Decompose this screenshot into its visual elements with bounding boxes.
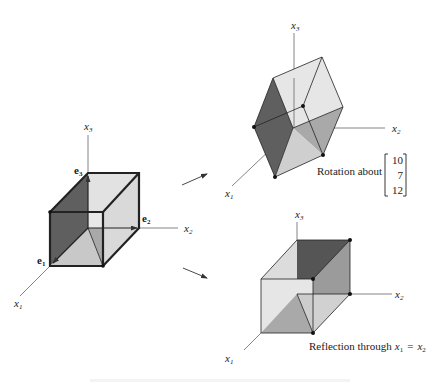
right-bracket bbox=[403, 154, 406, 196]
x1-axis bbox=[244, 333, 261, 350]
arrow-to-rotation bbox=[182, 174, 207, 185]
rotation-vector-entry-2: 7 bbox=[398, 169, 404, 181]
e3-label: e3 bbox=[74, 164, 83, 178]
rotation-vector-entry-1: 10 bbox=[392, 154, 404, 166]
original-cube-diagram: e3 e2 e1 x3 x2 x1 bbox=[13, 120, 193, 311]
x1-axis-label: x1 bbox=[224, 187, 233, 201]
arrow-to-reflection bbox=[183, 268, 207, 278]
linear-transformations-figure: e3 e2 e1 x3 x2 x1 x3 x2 x1 bbox=[0, 0, 440, 388]
faint-bleedthrough-caption bbox=[90, 379, 350, 382]
x1-axis bbox=[20, 266, 50, 296]
x2-axis-label: x2 bbox=[391, 122, 401, 136]
x3-axis-label: x3 bbox=[290, 19, 300, 33]
e1-label: e1 bbox=[37, 254, 46, 268]
x1-axis-label: x1 bbox=[13, 297, 22, 311]
x3-axis-label: x3 bbox=[294, 208, 304, 222]
x2-axis-label: x2 bbox=[394, 288, 404, 302]
reflected-cube-diagram: x3 x2 x1 Reflection throughx1=x2 bbox=[224, 208, 426, 366]
rotation-caption: Rotation about bbox=[317, 165, 382, 177]
rotation-vector-entry-3: 12 bbox=[392, 184, 403, 196]
rotated-cube-diagram: x3 x2 x1 Rotation about 10 7 12 bbox=[224, 19, 406, 201]
x2-axis-label: x2 bbox=[183, 222, 193, 236]
left-bracket bbox=[385, 154, 388, 196]
reflection-caption: Reflection throughx1=x2 bbox=[309, 340, 426, 354]
x1-axis-label: x1 bbox=[224, 352, 233, 366]
x3-axis-label: x3 bbox=[83, 120, 93, 134]
e2-label: e2 bbox=[142, 212, 151, 226]
